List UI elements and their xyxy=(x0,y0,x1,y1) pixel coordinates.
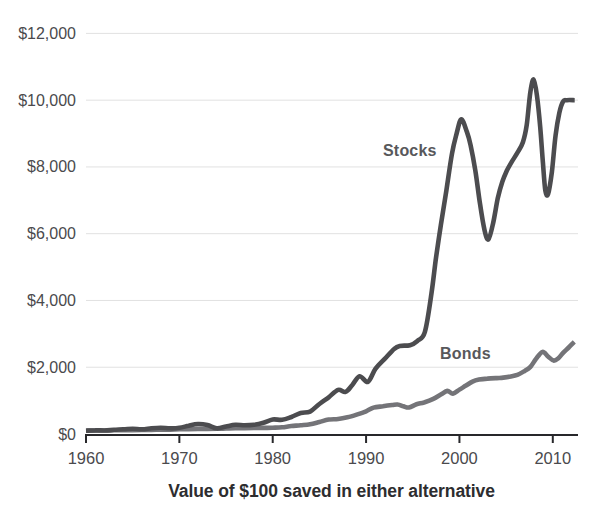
x-axis-tick-label: 1980 xyxy=(254,449,291,467)
bonds-line xyxy=(86,342,574,431)
y-axis-tick-label: $8,000 xyxy=(27,158,76,175)
chart-caption: Value of $100 saved in either alternativ… xyxy=(64,481,599,502)
chart-figure: 196019701980199020002010$0$2,000$4,000$6… xyxy=(0,0,599,507)
stocks-series-label: Stocks xyxy=(383,142,437,160)
line-chart-canvas: 196019701980199020002010$0$2,000$4,000$6… xyxy=(0,0,599,507)
x-axis-tick-label: 2000 xyxy=(441,449,478,467)
y-axis-tick-label: $4,000 xyxy=(27,292,76,309)
x-axis-tick-label: 1960 xyxy=(68,449,105,467)
y-axis-tick-label: $2,000 xyxy=(27,359,76,376)
y-axis-tick-label: $0 xyxy=(58,426,76,443)
y-axis-tick-label: $12,000 xyxy=(18,25,76,42)
x-axis-tick-label: 1990 xyxy=(348,449,385,467)
y-axis-tick-label: $6,000 xyxy=(27,225,76,242)
y-axis-tick-label: $10,000 xyxy=(18,92,76,109)
x-axis-tick-label: 2010 xyxy=(534,449,571,467)
x-axis-tick-label: 1970 xyxy=(161,449,198,467)
bonds-series-label: Bonds xyxy=(440,345,491,363)
